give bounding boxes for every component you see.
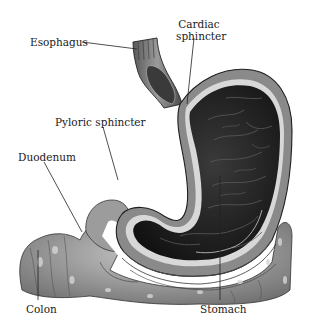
colon-label: Colon <box>26 303 57 315</box>
esophagus-leader-line <box>82 42 137 49</box>
stomach-shape <box>100 69 292 290</box>
cardiac-sphincter-label: Cardiac sphincter <box>176 18 222 42</box>
cardiac-label-line2: sphincter <box>176 30 222 42</box>
esophagus-shape <box>133 38 182 108</box>
anatomy-drawing <box>0 0 311 333</box>
pyloric-sphincter-label: Pyloric sphincter <box>55 116 146 128</box>
stomach-label: Stomach <box>200 303 247 315</box>
stomach-illustration: Esophagus Cardiac sphincter Pyloric sphi… <box>0 0 311 333</box>
pyloric-sphincter-leader-line <box>103 127 118 180</box>
duodenum-label: Duodenum <box>18 151 76 163</box>
cardiac-label-line1: Cardiac <box>176 18 222 30</box>
duodenum-leader-line <box>44 162 82 232</box>
esophagus-label: Esophagus <box>30 36 88 48</box>
